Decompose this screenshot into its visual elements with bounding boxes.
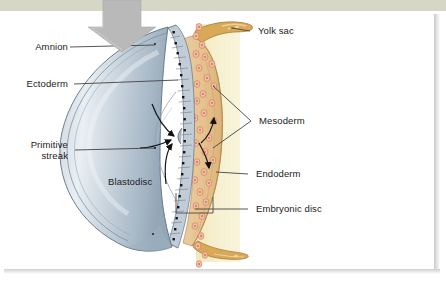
label-mesoderm: Mesoderm bbox=[259, 115, 305, 126]
label-primitive-streak-line1: Primitive bbox=[4, 139, 68, 150]
label-ectoderm: Ectoderm bbox=[4, 78, 68, 89]
label-blastodisc: Blastodisc bbox=[108, 176, 152, 187]
label-endoderm: Endoderm bbox=[256, 168, 301, 179]
primitive-streak-notch bbox=[178, 128, 182, 144]
blastodisc-body bbox=[60, 27, 176, 252]
label-primitive-streak-line2: streak bbox=[4, 150, 68, 161]
label-amnion: Amnion bbox=[10, 41, 68, 52]
label-yolk-sac: Yolk sac bbox=[258, 25, 294, 36]
label-embryonic-disc: Embryonic disc bbox=[256, 203, 322, 214]
figure-container: Amnion Ectoderm Primitive streak Blastod… bbox=[0, 0, 446, 284]
